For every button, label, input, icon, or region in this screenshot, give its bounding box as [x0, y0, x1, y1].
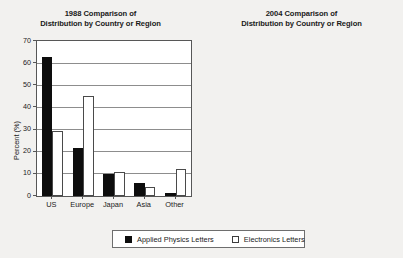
y-axis-tick-mark [33, 84, 36, 85]
y-axis-tick-mark [33, 40, 36, 41]
x-axis-tick-mark [113, 196, 114, 199]
chart-title: 2004 Comparison of Distribution by Count… [201, 9, 402, 29]
figure-canvas: 1988 Comparison of Distribution by Count… [0, 0, 403, 258]
legend-label: Applied Physics Letters [137, 235, 214, 244]
bar [42, 57, 53, 197]
bar [134, 183, 145, 196]
bar [73, 148, 84, 196]
legend-swatch-open-square [232, 236, 239, 243]
y-axis-tick-mark [33, 173, 36, 174]
y-axis-tick-label: 70 [9, 37, 31, 44]
x-axis-tick-label: Other [155, 201, 195, 209]
legend: Applied Physics Letters Electronics Lett… [112, 230, 305, 248]
y-axis-tick-mark [33, 151, 36, 152]
legend-entry: Electronics Letters [232, 235, 305, 244]
y-axis-tick-mark [33, 62, 36, 63]
bar [52, 131, 63, 196]
bar [145, 187, 156, 196]
x-axis-tick-mark [82, 196, 83, 199]
x-axis-tick-mark [51, 196, 52, 199]
y-axis-tick-mark [33, 129, 36, 130]
chart-panel-1988: 1988 Comparison of Distribution by Count… [0, 0, 201, 222]
chart-panel-2004: 2004 Comparison of Distribution by Count… [201, 0, 402, 222]
y-axis-tick-mark [33, 106, 36, 107]
y-axis-tick-label: 10 [9, 169, 31, 176]
y-axis-tick-label: 0 [9, 192, 31, 199]
y-axis-tick-label: 30 [9, 125, 31, 132]
bar [114, 172, 125, 196]
bar [176, 169, 187, 196]
bar [103, 174, 114, 196]
y-axis-tick-label: 40 [9, 103, 31, 110]
legend-entry: Applied Physics Letters [125, 235, 214, 244]
y-axis-tick-label: 20 [9, 147, 31, 154]
legend-swatch-filled-square [125, 236, 132, 243]
legend-label: Electronics Letters [244, 235, 305, 244]
gridline [37, 107, 191, 108]
plot-area [36, 40, 192, 197]
gridline [37, 85, 191, 86]
x-axis-tick-mark [144, 196, 145, 199]
chart-title: 1988 Comparison of Distribution by Count… [0, 9, 201, 29]
y-axis-tick-label: 50 [9, 81, 31, 88]
y-axis-tick-mark [33, 195, 36, 196]
x-axis-tick-mark [175, 196, 176, 199]
bar [83, 96, 94, 196]
y-axis-tick-label: 60 [9, 59, 31, 66]
gridline [37, 63, 191, 64]
